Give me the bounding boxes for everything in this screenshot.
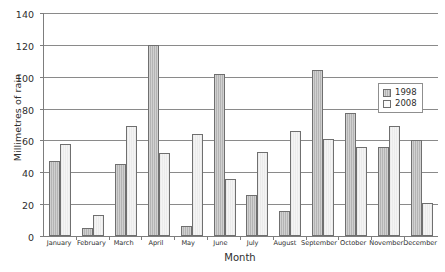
- x-axis-title: Month: [43, 252, 437, 263]
- legend-item-2008[interactable]: 2008: [383, 98, 417, 109]
- x-axis-tick-label: August: [269, 239, 301, 247]
- x-axis-tick-label: June: [204, 239, 236, 247]
- bar-2008: [389, 126, 400, 236]
- x-axis-tick-label: April: [140, 239, 172, 247]
- y-axis-tick-label: 140: [16, 9, 34, 20]
- y-axis-tick-label: 120: [16, 40, 34, 51]
- bar-1998: [148, 45, 159, 236]
- legend-swatch-icon: [383, 100, 391, 108]
- x-axis-tick-label: February: [75, 239, 107, 247]
- bar-group: [110, 13, 143, 236]
- bar-2008: [93, 215, 104, 236]
- bar-group: [372, 13, 405, 236]
- y-axis-tick-label: 0: [28, 232, 34, 243]
- x-axis-tick-label: July: [237, 239, 269, 247]
- bar-group: [274, 13, 307, 236]
- x-axis-tick-labels: JanuaryFebruaryMarchAprilMayJuneJulyAugu…: [43, 239, 437, 247]
- bar-2008: [60, 144, 71, 236]
- x-axis-tick-label: May: [172, 239, 204, 247]
- bar-pair: [405, 13, 438, 236]
- bar-pair: [307, 13, 340, 236]
- x-axis-tick-label: January: [43, 239, 75, 247]
- bar-1998: [246, 195, 257, 236]
- legend-item-1998[interactable]: 1998: [383, 87, 417, 98]
- bar-group: [339, 13, 372, 236]
- bar-1998: [82, 228, 93, 236]
- x-axis-tick-label: October: [337, 239, 369, 247]
- bar-1998: [378, 147, 389, 236]
- bar-2008: [257, 152, 268, 236]
- bar-pair: [44, 13, 77, 236]
- bar-group: [405, 13, 438, 236]
- legend-label: 1998: [395, 88, 417, 97]
- legend-label: 2008: [395, 99, 417, 108]
- bar-2008: [159, 153, 170, 236]
- bar-1998: [115, 164, 126, 236]
- y-axis-tick-label: 20: [22, 200, 34, 211]
- x-axis-tick-label: December: [403, 239, 437, 247]
- bar-1998: [279, 211, 290, 236]
- bar-group: [44, 13, 77, 236]
- bar-groups: [44, 13, 438, 236]
- chart-legend: 19982008: [378, 83, 423, 113]
- bar-1998: [49, 161, 60, 236]
- bar-2008: [126, 126, 137, 236]
- bar-2008: [192, 134, 203, 236]
- bar-2008: [290, 131, 301, 236]
- bar-pair: [274, 13, 307, 236]
- bar-pair: [110, 13, 143, 236]
- bar-2008: [323, 139, 334, 236]
- bar-group: [241, 13, 274, 236]
- bar-group: [77, 13, 110, 236]
- x-axis-tick-label: September: [301, 239, 337, 247]
- bar-1998: [181, 226, 192, 236]
- y-axis-tick-mark: 0: [40, 236, 44, 237]
- y-axis-title: Millimetres of rain: [12, 48, 23, 188]
- bar-group: [142, 13, 175, 236]
- y-axis-tick-label: 60: [22, 136, 34, 147]
- bar-pair: [241, 13, 274, 236]
- bar-group: [307, 13, 340, 236]
- bar-pair: [142, 13, 175, 236]
- x-axis-tick-label: November: [369, 239, 403, 247]
- bar-pair: [208, 13, 241, 236]
- y-axis-tick-label: 80: [22, 104, 34, 115]
- bar-2008: [422, 203, 433, 236]
- plot-area: 020406080100120140: [43, 13, 438, 237]
- bar-1998: [312, 70, 323, 236]
- bar-1998: [411, 140, 422, 236]
- legend-swatch-icon: [383, 89, 391, 97]
- bar-pair: [175, 13, 208, 236]
- y-axis-tick-label: 40: [22, 168, 34, 179]
- bar-pair: [339, 13, 372, 236]
- x-axis-tick-label: March: [108, 239, 140, 247]
- bar-pair: [77, 13, 110, 236]
- bar-group: [175, 13, 208, 236]
- bar-1998: [345, 113, 356, 236]
- bar-2008: [225, 179, 236, 236]
- bar-group: [208, 13, 241, 236]
- bar-1998: [214, 74, 225, 236]
- y-axis-tick-label: 100: [16, 72, 34, 83]
- rainfall-bar-chart: Millimetres of rain 020406080100120140 J…: [0, 0, 445, 272]
- bar-2008: [356, 147, 367, 236]
- bar-pair: [372, 13, 405, 236]
